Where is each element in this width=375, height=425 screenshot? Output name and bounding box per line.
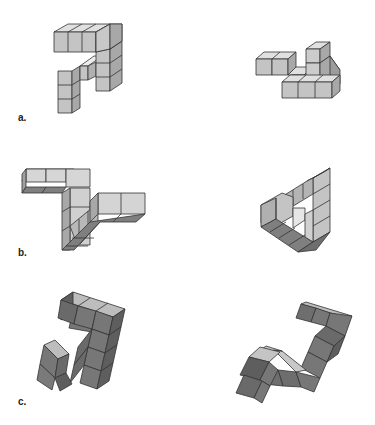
- figure-c-right: [236, 302, 352, 403]
- figure-a-left: [54, 24, 122, 113]
- figure-b-right: [261, 168, 330, 252]
- mental-rotation-figures: [0, 0, 375, 425]
- label-a: a.: [18, 112, 26, 123]
- label-b: b.: [18, 247, 27, 258]
- label-c: c.: [18, 396, 26, 407]
- figure-b-left: [22, 169, 145, 250]
- figure-c-left: [37, 292, 125, 391]
- figure-a-right: [256, 42, 340, 98]
